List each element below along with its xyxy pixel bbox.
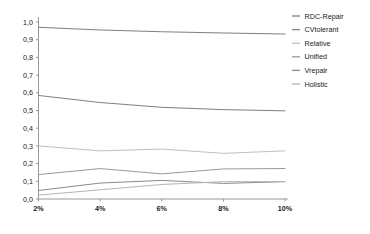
- series-line-cvtolerant: [39, 95, 286, 110]
- line-chart: 0,00,10,20,30,40,50,60,70,80,91,0 2%4%6%…: [0, 0, 370, 234]
- series-line-rdc-repair: [39, 27, 286, 34]
- series-line-holistic: [39, 182, 286, 195]
- y-axis-tick-label: 0,7: [23, 71, 33, 80]
- legend-label: Relative: [305, 39, 331, 48]
- legend-label: Unified: [305, 52, 327, 61]
- x-axis-tick-labels: 2%4%6%8%10%: [33, 199, 292, 213]
- y-axis-tick-label: 0,8: [23, 53, 33, 62]
- legend-item[interactable]: Holistic: [292, 80, 328, 89]
- x-axis-tick-label: 10%: [278, 204, 293, 213]
- x-axis-tick-label: 4%: [95, 204, 106, 213]
- y-axis-tick-label: 0,4: [23, 124, 33, 133]
- series-line-unified: [39, 169, 286, 175]
- series-line-relative: [39, 146, 286, 153]
- chart-legend: RDC-RepairCVtolerantRelativeUnifiedVrepa…: [292, 12, 344, 89]
- y-axis-tick-label: 0,6: [23, 88, 33, 97]
- y-axis-tick-label: 1,0: [23, 18, 33, 27]
- legend-label: Holistic: [305, 80, 329, 89]
- series-lines: [39, 27, 286, 195]
- y-axis-tick-label: 0,0: [23, 195, 33, 204]
- legend-item[interactable]: Vrepair: [292, 66, 328, 75]
- chart-canvas: 0,00,10,20,30,40,50,60,70,80,91,0 2%4%6%…: [0, 0, 370, 234]
- x-axis-tick-label: 8%: [218, 204, 229, 213]
- legend-item[interactable]: Unified: [292, 52, 327, 61]
- legend-label: Vrepair: [305, 66, 329, 75]
- y-axis-tick-labels: 0,00,10,20,30,40,50,60,70,80,91,0: [23, 18, 39, 204]
- y-axis-tick-label: 0,5: [23, 106, 33, 115]
- y-axis-tick-label: 0,3: [23, 142, 33, 151]
- y-axis-tick-label: 0,9: [23, 35, 33, 44]
- y-axis-tick-label: 0,2: [23, 159, 33, 168]
- y-axis-tick-label: 0,1: [23, 177, 33, 186]
- legend-item[interactable]: Relative: [292, 39, 330, 48]
- legend-label: CVtolerant: [305, 25, 339, 34]
- legend-item[interactable]: CVtolerant: [292, 25, 338, 34]
- x-axis-tick-label: 2%: [33, 204, 44, 213]
- legend-label: RDC-Repair: [305, 12, 345, 21]
- legend-item[interactable]: RDC-Repair: [292, 12, 344, 21]
- x-axis-tick-label: 6%: [157, 204, 168, 213]
